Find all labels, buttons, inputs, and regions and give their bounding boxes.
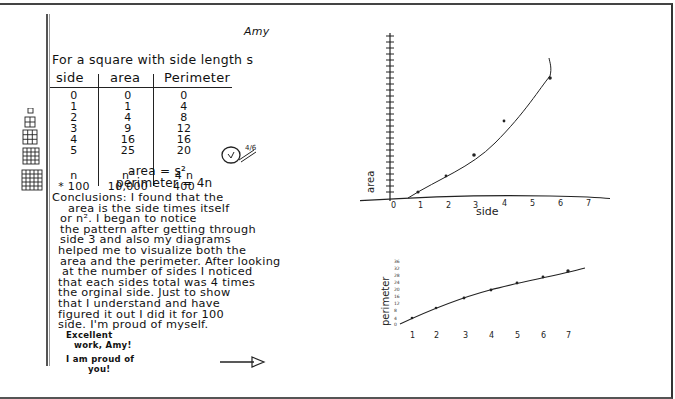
check-stamp-icon: 4/6 — [220, 143, 260, 165]
svg-text:12: 12 — [394, 301, 400, 306]
arrow-right-icon — [218, 355, 268, 369]
svg-text:0: 0 — [394, 322, 397, 327]
x-axis-label: side — [476, 205, 499, 218]
svg-text:0: 0 — [391, 201, 396, 210]
teacher-comment: Excellent work, Amy! I am proud of you! — [66, 330, 134, 374]
svg-text:5: 5 — [530, 199, 535, 208]
worksheet-heading: For a square with side length s — [52, 52, 253, 67]
svg-text:6: 6 — [558, 199, 563, 208]
column-header-area: area — [110, 70, 140, 85]
svg-text:28: 28 — [394, 273, 400, 278]
svg-text:2: 2 — [434, 331, 439, 340]
data-table: side area Perimeter 0 1 2 3 4 5 n * 100 … — [50, 70, 230, 170]
svg-text:4: 4 — [394, 316, 397, 321]
column-header-perimeter: Perimeter — [164, 70, 230, 85]
svg-text:1: 1 — [418, 201, 423, 210]
svg-text:32: 32 — [394, 266, 400, 271]
svg-text:1: 1 — [410, 331, 415, 340]
table-header-rule — [50, 87, 232, 88]
square-diagrams — [20, 108, 44, 198]
svg-text:24: 24 — [394, 280, 400, 285]
side-column: 0 1 2 3 4 5 n * 100 — [56, 90, 92, 192]
table-column-divider — [98, 74, 99, 186]
notebook-margin-line-inner — [49, 14, 50, 366]
svg-text:2: 2 — [446, 201, 451, 210]
svg-text:20: 20 — [394, 287, 400, 292]
column-header-side: side — [56, 70, 84, 85]
svg-text:7: 7 — [586, 199, 591, 208]
svg-text:4: 4 — [489, 331, 494, 340]
conclusion-text: Conclusions: I found that the area is th… — [52, 193, 292, 331]
svg-text:8: 8 — [394, 308, 397, 313]
perimeter-formula: perimeter = 4n — [116, 176, 213, 190]
y-axis-label: perimeter — [380, 276, 391, 326]
notebook-margin-line — [46, 14, 48, 366]
student-name: Amy — [244, 25, 270, 38]
svg-text:16: 16 — [394, 294, 400, 299]
svg-text:3: 3 — [463, 331, 468, 340]
svg-text:6: 6 — [541, 331, 546, 340]
svg-text:4/6: 4/6 — [245, 144, 257, 152]
area-chart: 01234567 side area — [360, 28, 610, 228]
perimeter-chart: 04812162024283236 1234567 perimeter — [380, 250, 620, 350]
svg-text:36: 36 — [394, 259, 400, 264]
svg-text:7: 7 — [566, 331, 571, 340]
svg-text:4: 4 — [502, 199, 507, 208]
y-axis-label: area — [365, 171, 376, 193]
svg-text:5: 5 — [515, 331, 520, 340]
